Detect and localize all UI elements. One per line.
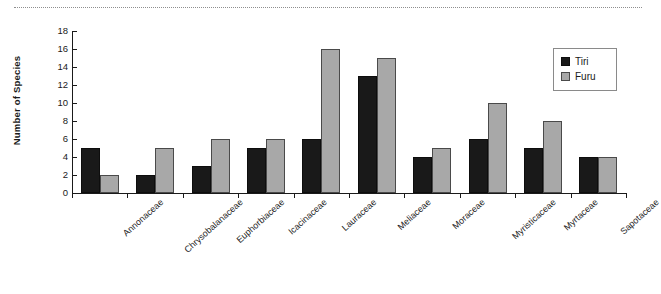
bar-furu-meliaceae [377, 58, 396, 193]
bar-furu-moraceae [432, 148, 451, 193]
y-axis-tick-label: 16 [57, 43, 68, 55]
x-axis-category-label: Myristicaceae [510, 197, 558, 241]
x-axis-category-label: Annonaceae [121, 197, 165, 238]
y-axis-tick-label: 6 [63, 133, 68, 145]
bar-tiri-sapotaceae [579, 157, 598, 193]
y-axis-line [72, 31, 73, 193]
bar-furu-myrtaceae [543, 121, 562, 193]
x-axis-category-label: Icacinaceae [286, 197, 328, 237]
legend-swatch-tiri-icon [561, 57, 570, 66]
x-axis-tick [349, 193, 350, 198]
bar-tiri-moraceae [413, 157, 432, 193]
x-axis-tick [515, 193, 516, 198]
x-axis-tick [72, 193, 73, 198]
y-axis-tick-label: 10 [57, 97, 68, 109]
legend-label: Tiri [575, 56, 589, 67]
x-axis-tick [404, 193, 405, 198]
bar-furu-sapotaceae [598, 157, 617, 193]
x-axis-tick [571, 193, 572, 198]
y-axis-tick-label: 8 [63, 115, 68, 127]
bar-furu-lauraceae [321, 49, 340, 193]
y-axis-tick: 18 [72, 31, 77, 32]
x-axis-tick [183, 193, 184, 198]
x-axis-category-label: Sapotaceae [619, 197, 661, 237]
x-axis-category-label: Lauraceae [340, 197, 378, 233]
y-axis-tick-label: 14 [57, 61, 68, 73]
y-axis-tick: 10 [72, 103, 77, 104]
y-axis-tick: 8 [72, 121, 77, 122]
bar-furu-annonaceae [100, 175, 119, 193]
legend-label: Furu [575, 71, 596, 82]
bar-furu-myristicaceae [488, 103, 507, 193]
y-axis-tick-label: 0 [63, 187, 68, 199]
bar-furu-euphorbiaceae [211, 139, 230, 193]
x-axis-category-label: Meliaceae [395, 197, 432, 232]
y-axis-tick: 16 [72, 49, 77, 50]
bar-tiri-annonaceae [81, 148, 100, 193]
chart-legend: TiriFuru [553, 48, 617, 91]
bar-furu-chrysobalanaceae [155, 148, 174, 193]
legend-swatch-furu-icon [561, 72, 570, 81]
y-axis-tick: 4 [72, 157, 77, 158]
bar-tiri-myrtaceae [524, 148, 543, 193]
x-axis-category-label: Myrtaceae [562, 197, 600, 233]
plot-area: 024681012141618 [72, 31, 626, 193]
bar-tiri-meliaceae [358, 76, 377, 193]
y-axis-tick-label: 18 [57, 25, 68, 37]
x-axis-category-label: Moraceae [450, 197, 486, 231]
bar-tiri-lauraceae [302, 139, 321, 193]
y-axis-tick-label: 12 [57, 79, 68, 91]
x-axis-category-label: Chrysobalanaceae [182, 197, 244, 255]
x-axis-tick [127, 193, 128, 198]
x-axis-tick [626, 193, 627, 198]
legend-item-tiri: Tiri [561, 54, 610, 69]
bar-furu-icacinaceae [266, 139, 285, 193]
x-axis-tick [294, 193, 295, 198]
y-axis-title: Number of Species [11, 41, 22, 161]
y-axis-tick: 2 [72, 175, 77, 176]
y-axis-tick-label: 2 [63, 169, 68, 181]
legend-item-furu: Furu [561, 69, 610, 84]
y-axis-tick: 6 [72, 139, 77, 140]
bar-tiri-icacinaceae [247, 148, 266, 193]
bar-tiri-euphorbiaceae [192, 166, 211, 193]
bar-tiri-chrysobalanaceae [136, 175, 155, 193]
bar-tiri-myristicaceae [469, 139, 488, 193]
page-top-dotted-rule [14, 7, 642, 8]
y-axis-tick-label: 4 [63, 151, 68, 163]
x-axis-tick [460, 193, 461, 198]
y-axis-tick: 12 [72, 85, 77, 86]
y-axis-tick: 14 [72, 67, 77, 68]
